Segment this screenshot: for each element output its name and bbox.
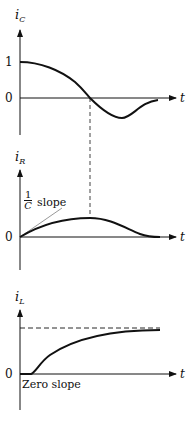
il-tick-0: 0 (5, 368, 13, 380)
ir-slope-label: slope (37, 197, 66, 208)
ir-x-label: t (180, 231, 185, 243)
ir-curve (20, 218, 160, 237)
ir-slope-fraction: 1 C (24, 190, 32, 211)
ir-tick-0: 0 (5, 231, 13, 243)
il-curve (20, 330, 160, 374)
diagram: iC 1 0 t iR 0 t 1 C slope iL 0 t Zero sl… (0, 0, 194, 421)
ir-y-label: iR (15, 150, 25, 166)
ic-x-label: t (180, 92, 185, 104)
il-x-label: t (180, 368, 185, 380)
il-zero-slope-label: Zero slope (22, 379, 81, 390)
ic-y-label: iC (15, 8, 25, 24)
ic-tick-0: 0 (5, 92, 13, 104)
ic-tick-1: 1 (5, 56, 13, 68)
il-y-label: iL (15, 290, 24, 306)
ic-curve (20, 62, 158, 118)
